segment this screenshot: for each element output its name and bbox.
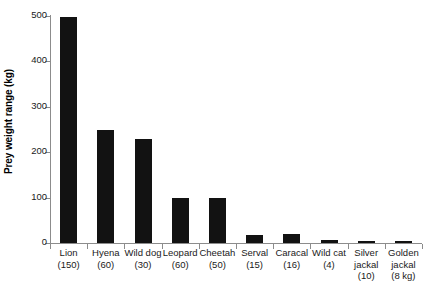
x-label-name: Wild dog — [122, 247, 163, 259]
x-label-name: Silver jackal — [346, 247, 387, 270]
bar-leopard — [172, 198, 189, 243]
y-axis-title: Prey weight range (kg) — [0, 0, 18, 243]
x-axis-label-hyena: Hyena(60) — [85, 247, 126, 270]
y-tick-label: 300 — [31, 100, 47, 111]
x-axis-label-lion: Lion(150) — [48, 247, 89, 270]
x-axis-label-serval: Serval(15) — [234, 247, 275, 270]
x-label-sublabel: (15) — [234, 259, 275, 271]
y-tick-label: 0 — [42, 236, 47, 247]
x-label-sublabel: (30) — [122, 259, 163, 271]
x-axis-label-silver-jackal: Silver jackal(10) — [346, 247, 387, 282]
x-axis-labels: Lion(150)Hyena(60)Wild dog(30)Leopard(60… — [50, 247, 422, 305]
bar-caracal — [283, 234, 300, 243]
x-label-name: Wild cat — [308, 247, 349, 259]
x-label-sublabel: (8 kg) — [383, 270, 424, 282]
x-label-name: Serval — [234, 247, 275, 259]
x-label-sublabel: (10) — [346, 270, 387, 282]
x-label-sublabel: (60) — [160, 259, 201, 271]
bar-hyena — [97, 130, 114, 244]
x-axis-label-wild-cat: Wild cat(4) — [308, 247, 349, 270]
x-label-name: Cheetah — [197, 247, 238, 259]
x-label-sublabel: (50) — [197, 259, 238, 271]
x-axis-label-golden-jackal: Golden jackal(8 kg) — [383, 247, 424, 282]
x-axis-label-leopard: Leopard(60) — [160, 247, 201, 270]
x-label-sublabel: (4) — [308, 259, 349, 271]
x-axis-label-cheetah: Cheetah(50) — [197, 247, 238, 270]
bar-serval — [246, 235, 263, 243]
bar-cheetah — [209, 198, 226, 243]
x-label-name: Leopard — [160, 247, 201, 259]
x-label-name: Caracal — [271, 247, 312, 259]
y-tick-label: 200 — [31, 145, 47, 156]
x-label-name: Lion — [48, 247, 89, 259]
x-label-name: Hyena — [85, 247, 126, 259]
y-tick-label: 400 — [31, 54, 47, 65]
bar-wild-cat — [321, 240, 338, 243]
y-axis-line — [50, 15, 51, 244]
y-tick-label: 100 — [31, 191, 47, 202]
x-label-name: Golden jackal — [383, 247, 424, 270]
x-axis-label-wild-dog: Wild dog(30) — [122, 247, 163, 270]
x-label-sublabel: (16) — [271, 259, 312, 271]
bar-golden-jackal — [395, 241, 412, 243]
y-tick-label: 500 — [31, 9, 47, 20]
bar-chart: Prey weight range (kg) 0100200300400500 … — [0, 0, 431, 305]
x-label-sublabel: (60) — [85, 259, 126, 271]
bar-lion — [60, 17, 77, 243]
bar-silver-jackal — [358, 241, 375, 243]
x-label-sublabel: (150) — [48, 259, 89, 271]
x-axis-label-caracal: Caracal(16) — [271, 247, 312, 270]
plot-area: 0100200300400500 — [50, 16, 422, 243]
y-axis-title-text: Prey weight range (kg) — [4, 69, 15, 174]
bar-wild-dog — [135, 139, 152, 243]
